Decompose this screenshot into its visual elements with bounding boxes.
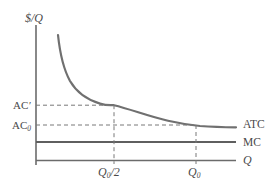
q-half-text: Q <box>98 165 107 179</box>
plot-area <box>0 0 274 186</box>
y-tick-label-ac-prime: AC′ <box>13 100 31 111</box>
x-tick-label-q-zero: Q0 <box>188 166 200 178</box>
atc-curve-label: ATC <box>243 119 265 131</box>
x-axis-label: Q <box>243 154 252 166</box>
x-tick-label-q-half: Q0/2 <box>98 166 120 178</box>
ac-zero-subscript: 0 <box>27 124 31 133</box>
ac-prime-superscript: ′ <box>28 99 30 111</box>
q-zero-text: Q <box>188 165 197 179</box>
q-zero-subscript: 0 <box>197 171 201 180</box>
y-tick-label-ac-zero: AC0 <box>12 120 31 131</box>
cost-curve-figure: $/Q AC′ AC0 Q0/2 Q0 ATC MC Q <box>0 0 274 186</box>
q-half-subscript: 0 <box>107 171 111 180</box>
q-half-suffix: /2 <box>110 165 119 179</box>
ac-zero-text: AC <box>12 119 27 131</box>
ac-prime-text: AC <box>13 99 28 111</box>
y-axis-label: $/Q <box>25 12 43 24</box>
mc-curve-label: MC <box>243 137 261 149</box>
atc-curve <box>58 35 236 127</box>
